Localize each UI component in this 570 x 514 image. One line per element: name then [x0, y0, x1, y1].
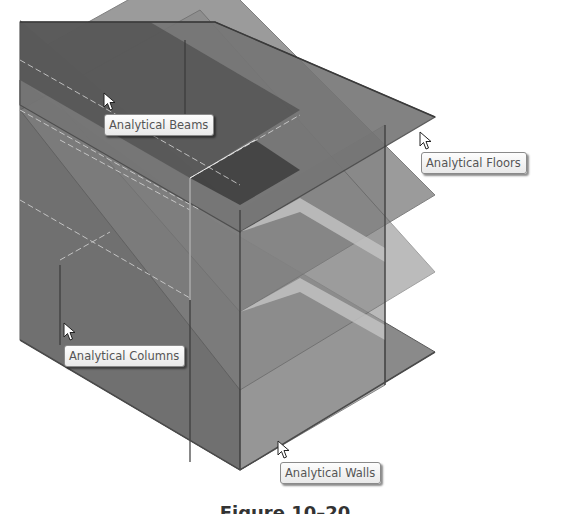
arrow-cursor-icon — [419, 131, 433, 151]
arrow-cursor-icon — [103, 92, 117, 112]
tooltip-label: Analytical Floors — [426, 156, 521, 170]
arrow-cursor-icon — [63, 322, 77, 342]
tooltip-label: Analytical Walls — [285, 466, 375, 480]
tooltip-label: Analytical Beams — [109, 118, 208, 132]
tooltip-label: Analytical Columns — [69, 349, 179, 363]
tooltip-analytical-walls: Analytical Walls — [280, 462, 381, 484]
analytical-model-view[interactable] — [0, 0, 570, 514]
tooltip-analytical-floors: Analytical Floors — [421, 152, 527, 174]
figure-caption: Figure 10–20 — [0, 502, 570, 514]
tooltip-analytical-columns: Analytical Columns — [64, 345, 185, 367]
arrow-cursor-icon — [277, 440, 291, 460]
tooltip-analytical-beams: Analytical Beams — [104, 114, 214, 136]
model-viewport[interactable]: Analytical Beams Analytical Floors Analy… — [0, 0, 570, 514]
